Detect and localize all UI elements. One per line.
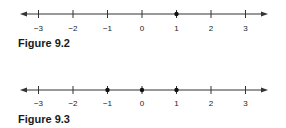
arrow-left-icon [20, 12, 27, 17]
tick-label: 1 [174, 99, 179, 108]
point-marker [105, 88, 109, 92]
tick-label: 2 [209, 99, 214, 108]
tick-label: 0 [140, 24, 145, 33]
tick-label: −2 [68, 24, 78, 33]
arrow-right-icon [261, 88, 268, 93]
tick-label: 1 [174, 24, 179, 33]
tick-label: 3 [243, 24, 248, 33]
tick-label: 3 [243, 99, 248, 108]
tick-label: −1 [103, 99, 113, 108]
number-line-figure-9-2: −3−2−10123 [20, 10, 268, 33]
tick-label: 2 [209, 24, 214, 33]
tick-label: −3 [34, 24, 44, 33]
tick-label: −3 [34, 99, 44, 108]
point-marker [140, 88, 144, 92]
tick-label: 0 [140, 99, 145, 108]
tick-label: −2 [68, 99, 78, 108]
point-marker [174, 12, 178, 16]
figure-caption-9-2: Figure 9.2 [18, 37, 70, 49]
tick-label: −1 [103, 24, 113, 33]
point-marker [174, 88, 178, 92]
number-lines: −3−2−10123 −3−2−10123 [0, 0, 286, 128]
figure-caption-9-3: Figure 9.3 [18, 113, 70, 125]
number-line-figure-9-3: −3−2−10123 [20, 86, 268, 108]
arrow-left-icon [20, 88, 27, 93]
arrow-right-icon [261, 12, 268, 17]
